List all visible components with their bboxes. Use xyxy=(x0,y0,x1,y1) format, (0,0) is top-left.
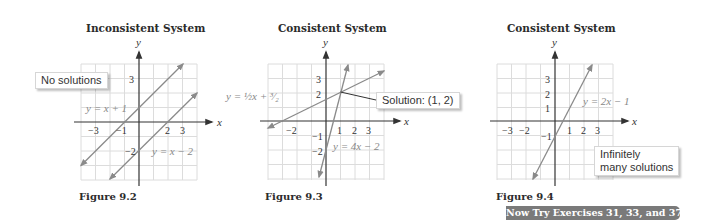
y-tick: 2 xyxy=(316,89,321,100)
x-axis-label: x xyxy=(631,115,637,127)
equation-label: y = 2x − 1 xyxy=(582,95,630,107)
y-tick: 2 xyxy=(545,89,550,100)
x-tick: 1 xyxy=(567,125,572,136)
graph-9-4: x y −3 −2 1 2 3 3 2 1 −1 y = 2x − 1 xyxy=(466,0,706,222)
figure-caption: Figure 9.4 xyxy=(496,191,554,202)
equation-label: y = x + 1 xyxy=(85,102,127,114)
equation-label: y = ½x + ³⁄₂ xyxy=(225,90,279,102)
x-tick: 3 xyxy=(180,125,185,136)
figure-9-3: Consistent System x y −2 1 2 3 xyxy=(230,0,470,222)
x-axis-label: x xyxy=(403,115,409,127)
x-tick: 2 xyxy=(165,125,170,136)
x-tick: 2 xyxy=(581,125,586,136)
x-tick: 1 xyxy=(337,125,342,136)
x-tick: 3 xyxy=(366,125,371,136)
now-try-exercises-banner: Now Try Exercises 31, 33, and 37 xyxy=(506,206,680,220)
y-axis-label: y xyxy=(135,36,141,48)
y-axis-label: y xyxy=(322,36,328,48)
figure-caption: Figure 9.2 xyxy=(79,191,137,202)
x-tick: −3 xyxy=(502,125,513,136)
graph-9-3: x y −2 1 2 3 3 2 −1 −2 y = ½x + ³⁄₂ y = … xyxy=(230,0,470,222)
callout-solution: Solution: (1, 2) xyxy=(376,92,460,109)
callout-line-2: many solutions xyxy=(600,161,673,174)
x-tick: 3 xyxy=(595,125,600,136)
figure-9-2: Inconsistent System x y −3 −1 2 3 3 xyxy=(0,0,240,222)
y-tick: −2 xyxy=(312,146,323,157)
y-tick: 3 xyxy=(316,74,321,85)
equation-label: y = 4x − 2 xyxy=(332,140,380,152)
y-tick: 3 xyxy=(545,74,550,85)
y-tick: −2 xyxy=(125,146,136,157)
y-tick: −1 xyxy=(541,131,552,142)
x-tick: −2 xyxy=(286,125,297,136)
x-tick: −3 xyxy=(88,125,99,136)
y-axis-label: y xyxy=(551,36,557,48)
callout-no-solutions: No solutions xyxy=(35,72,108,89)
x-axis-label: x xyxy=(216,116,222,128)
y-tick: 3 xyxy=(129,74,134,85)
x-tick: −1 xyxy=(116,125,127,136)
x-tick: 2 xyxy=(352,125,357,136)
callout-infinitely-many: Infinitely many solutions xyxy=(594,146,679,176)
graph-9-2: x y −3 −1 2 3 3 −2 y = x + 1 y = x − 2 xyxy=(0,0,240,222)
x-tick: −2 xyxy=(519,125,530,136)
equation-label: y = x − 2 xyxy=(151,145,194,157)
callout-line-1: Infinitely xyxy=(600,148,673,161)
line-y-eq-2x-minus-1 xyxy=(533,65,592,179)
figure-caption: Figure 9.3 xyxy=(265,191,323,202)
figure-9-4: Consistent System x y −3 −2 1 2 3 3 2 xyxy=(466,0,706,222)
y-tick: −1 xyxy=(312,131,323,142)
y-tick: 1 xyxy=(545,103,550,114)
